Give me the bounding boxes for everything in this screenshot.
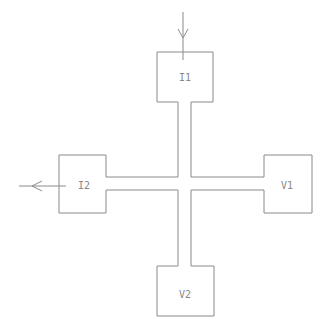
current-in-arrow bbox=[178, 12, 188, 60]
pad-label-v1: V1 bbox=[281, 180, 293, 191]
pad-label-v2: V2 bbox=[179, 289, 191, 300]
pad-label-i1: I1 bbox=[179, 72, 191, 83]
cross-device-diagram: I1 I2 V1 V2 bbox=[0, 0, 325, 335]
device-outline bbox=[59, 52, 312, 316]
pad-label-i2: I2 bbox=[78, 180, 90, 191]
